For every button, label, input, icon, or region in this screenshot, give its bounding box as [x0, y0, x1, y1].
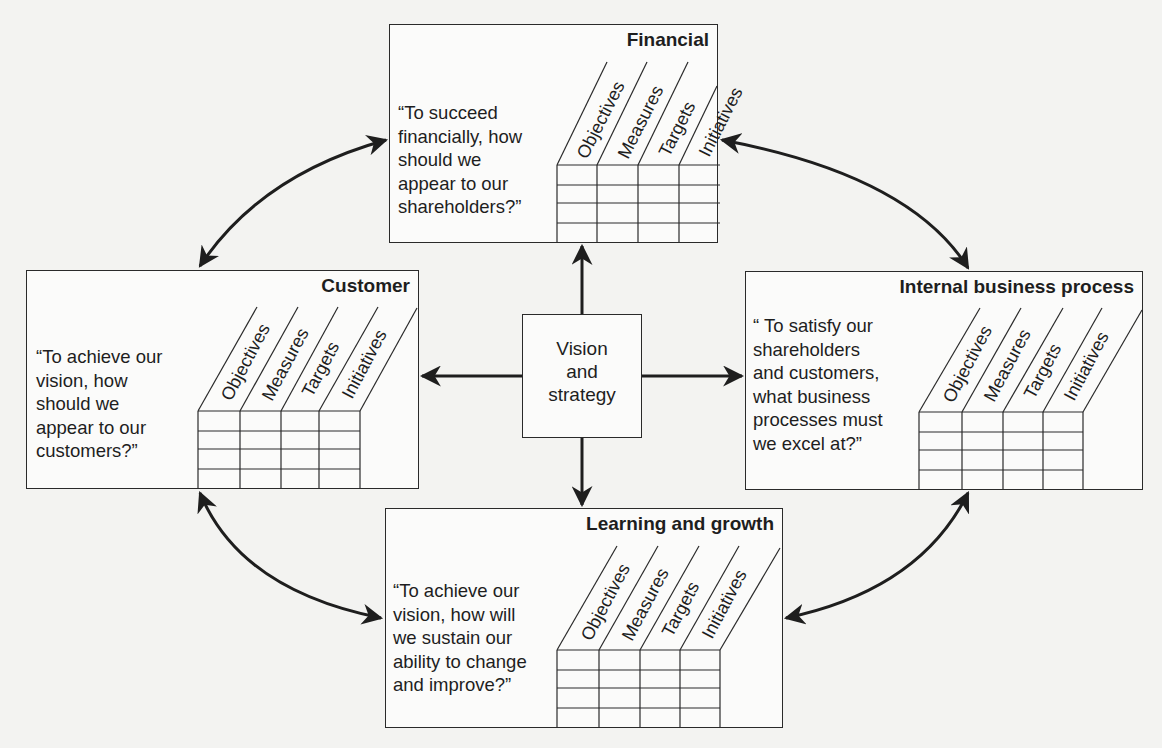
customer-question: “To achieve our vision, how should we ap…	[36, 345, 162, 463]
arrow-financial-internal	[722, 140, 968, 268]
internal-business-process-box: Internal business process “ To satisfy o…	[745, 271, 1143, 490]
internal-business-process-title: Internal business process	[900, 276, 1134, 298]
financial-question: “To succeed financially, how should we a…	[398, 101, 522, 219]
vision-strategy-box: Vision and strategy	[522, 314, 642, 438]
vision-strategy-label: Vision and strategy	[523, 337, 641, 406]
internal-business-process-question: “ To satisfy our shareholders and custom…	[753, 314, 883, 455]
learning-growth-question: “To achieve our vision, how will we sust…	[393, 579, 527, 697]
learning-growth-box: Learning and growth “To achieve our visi…	[385, 508, 783, 728]
arrow-financial-customer	[200, 140, 386, 266]
financial-title: Financial	[627, 29, 709, 51]
financial-perspective-box: Financial “To succeed financially, how s…	[389, 24, 718, 243]
arrow-internal-learning	[786, 493, 968, 618]
learning-growth-title: Learning and growth	[586, 513, 774, 535]
customer-title: Customer	[321, 275, 410, 297]
customer-perspective-box: Customer “To achieve our vision, how sho…	[26, 270, 419, 489]
arrow-customer-learning	[200, 493, 381, 618]
